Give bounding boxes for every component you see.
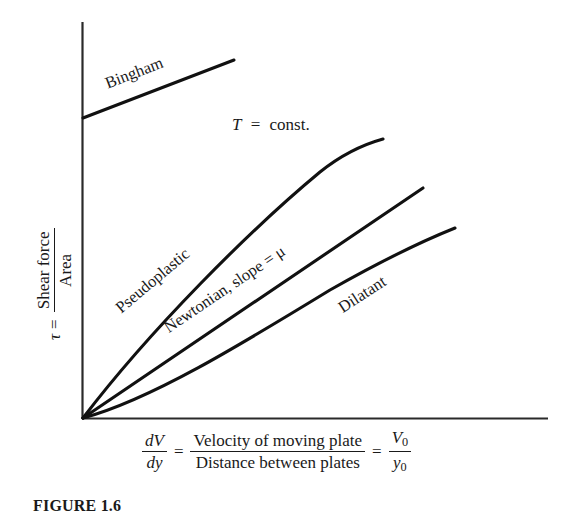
annotation-variable: T xyxy=(232,115,241,134)
x-axis-equals-first: = xyxy=(174,442,184,462)
y-axis-fraction: Shear force Area xyxy=(34,228,75,312)
y-axis-symbol: τ xyxy=(45,334,65,340)
ratio-fraction: V0 y0 xyxy=(389,428,412,475)
ratio-denominator-subscript: 0 xyxy=(401,461,407,475)
definition-fraction: Velocity of moving plate Distance betwee… xyxy=(190,431,365,472)
ratio-numerator-subscript: 0 xyxy=(402,435,408,449)
temperature-annotation: T = const. xyxy=(232,115,310,135)
ratio-numerator: V0 xyxy=(389,428,412,452)
ratio-denominator-symbol: y xyxy=(393,453,401,472)
annotation-value: const. xyxy=(270,115,310,134)
y-axis-numerator: Shear force xyxy=(34,228,55,312)
shear-rate-numerator: dV xyxy=(142,431,167,452)
y-axis-equals: = xyxy=(45,319,65,329)
figure-container: τ = Shear force Area T = const. Bingham … xyxy=(0,0,572,517)
ratio-numerator-symbol: V xyxy=(392,428,402,447)
definition-denominator: Distance between plates xyxy=(193,452,363,472)
shear-rate-denominator: dy xyxy=(143,452,165,472)
figure-caption: FIGURE 1.6 xyxy=(33,497,121,515)
x-axis-equals-second: = xyxy=(372,442,382,462)
y-axis-label: τ = Shear force Area xyxy=(34,40,75,340)
annotation-equals: = xyxy=(251,115,261,134)
definition-numerator: Velocity of moving plate xyxy=(190,431,365,452)
shear-rate-fraction: dV dy xyxy=(142,431,167,472)
y-axis-denominator: Area xyxy=(55,251,75,290)
ratio-denominator: y0 xyxy=(390,452,410,475)
x-axis-label: dV dy = Velocity of moving plate Distanc… xyxy=(140,428,413,475)
